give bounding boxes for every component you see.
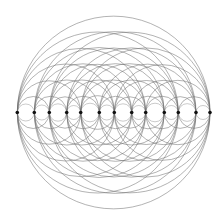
node-point [177,111,181,115]
arc-circle [49,104,66,121]
arc-circle [67,106,81,120]
node-point [15,111,19,115]
node-point [79,111,83,115]
arc-circle [146,103,165,122]
node-point [194,111,198,115]
arc-circle [164,97,196,129]
arc-circle [17,104,34,121]
arc-circle [164,106,178,120]
arc-circle [49,32,210,193]
node-point [65,111,69,115]
node-point [113,111,117,115]
node-point [208,111,212,115]
node-point [130,111,134,115]
point-group [15,111,211,115]
arc-circle [114,104,131,121]
node-point [144,111,148,115]
arc-circle [99,105,114,120]
arc-circle [34,105,49,120]
node-point [98,111,102,115]
arc-circle [178,104,196,122]
arc-circle [81,103,100,122]
arc-circle [132,106,146,120]
node-point [48,111,52,115]
circle-pattern-diagram [0,0,224,220]
node-point [33,111,37,115]
arc-circle [196,106,210,120]
arc-circle [81,96,115,130]
node-point [163,111,167,115]
